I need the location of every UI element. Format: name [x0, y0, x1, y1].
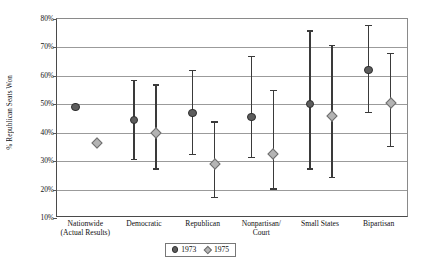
y-axis-tick-label: 10%: [20, 213, 54, 222]
error-bar-cap-upper: [387, 53, 394, 54]
error-bar-cap-upper: [248, 56, 255, 57]
error-bar-cap-upper: [189, 70, 196, 71]
y-axis-tick-label: 60%: [20, 70, 54, 79]
gridline: [57, 47, 407, 48]
error-bar-cap-upper: [153, 84, 160, 85]
legend-item-1975: 1975: [205, 245, 229, 254]
error-bar-cap-lower: [387, 146, 394, 147]
data-point-marker-1975: [150, 127, 161, 138]
gridline: [57, 104, 407, 105]
gridline: [57, 190, 407, 191]
data-point-marker-1973: [130, 116, 138, 124]
y-axis-tick-mark: [53, 19, 57, 20]
data-point-marker-1975: [385, 97, 396, 108]
y-axis-tick-label: 80%: [20, 14, 54, 23]
legend-circle-icon: [172, 246, 178, 252]
legend-label-1975: 1975: [214, 245, 229, 254]
y-axis-tick-mark: [53, 76, 57, 77]
x-axis-category-label: Democratic: [115, 219, 174, 228]
y-axis-tick-labels: 80%70%60%50%40%30%20%10%: [18, 0, 54, 271]
data-point-marker-1973: [71, 103, 79, 111]
data-point-marker-1973: [188, 109, 196, 117]
data-point-marker-1975: [209, 158, 220, 169]
legend-diamond-icon: [204, 246, 212, 254]
x-axis-category-label: Small States: [291, 219, 350, 228]
error-bar-cap-lower: [131, 159, 138, 160]
error-bar-cap-upper: [131, 80, 138, 81]
y-axis-tick-mark: [53, 47, 57, 48]
data-point-marker-1973: [306, 100, 314, 108]
error-bar-line: [273, 90, 274, 190]
y-axis-tick-label: 20%: [20, 184, 54, 193]
error-bar-cap-upper: [270, 90, 277, 91]
error-bar-cap-upper: [307, 30, 314, 31]
y-axis-tick-label: 40%: [20, 127, 54, 136]
x-axis-category-label: Bipartisan: [349, 219, 408, 228]
error-bar-cap-lower: [189, 154, 196, 155]
data-point-marker-1975: [268, 148, 279, 159]
x-axis-category-label-line: Court: [232, 228, 291, 237]
y-axis-title: % Republican Seats Won: [1, 0, 19, 225]
y-axis-tick-label: 30%: [20, 156, 54, 165]
error-bar-cap-lower: [211, 197, 218, 198]
x-axis-category-label: Republican: [173, 219, 232, 228]
x-axis-category-label-line: Democratic: [115, 219, 174, 228]
legend-label-1973: 1973: [181, 245, 196, 254]
error-bar-line: [251, 56, 252, 158]
error-bar-cap-upper: [211, 121, 218, 122]
error-bar-cap-lower: [329, 177, 336, 178]
gridline: [57, 161, 407, 162]
gridline: [57, 133, 407, 134]
x-axis-category-label-line: Nationwide: [56, 219, 115, 228]
y-axis-tick-label: 70%: [20, 42, 54, 51]
plot-area: [56, 18, 408, 217]
error-bar-cap-upper: [329, 45, 336, 46]
y-axis-tick-mark: [53, 133, 57, 134]
error-bar-cap-lower: [270, 188, 277, 189]
error-bar-cap-lower: [307, 168, 314, 169]
y-axis-tick-label: 50%: [20, 99, 54, 108]
y-axis-tick-mark: [53, 104, 57, 105]
data-point-marker-1973: [364, 66, 372, 74]
gridline: [57, 76, 407, 77]
y-axis-tick-mark: [53, 161, 57, 162]
chart-legend: 1973 1975: [165, 243, 236, 257]
error-bar-cap-lower: [153, 168, 160, 169]
error-bar-cap-lower: [365, 112, 372, 113]
data-point-marker-1975: [92, 137, 103, 148]
y-axis-title-text: % Republican Seats Won: [6, 75, 14, 150]
y-axis-tick-mark: [53, 190, 57, 191]
x-axis-category-label-line: (Actual Results): [56, 228, 115, 237]
error-bar-cap-upper: [365, 25, 372, 26]
error-bar-cap-lower: [248, 157, 255, 158]
x-axis-category-label-line: Small States: [291, 219, 350, 228]
data-point-marker-1975: [326, 110, 337, 121]
x-axis-category-label: Nationwide(Actual Results): [56, 219, 115, 238]
data-point-marker-1973: [247, 113, 255, 121]
chart-container: % Republican Seats Won 80%70%60%50%40%30…: [0, 0, 422, 271]
x-axis-category-label-line: Nonpartisan/: [232, 219, 291, 228]
x-axis-category-label-line: Bipartisan: [349, 219, 408, 228]
x-axis-category-label-line: Republican: [173, 219, 232, 228]
legend-item-1973: 1973: [172, 245, 196, 254]
x-axis-category-label: Nonpartisan/Court: [232, 219, 291, 238]
